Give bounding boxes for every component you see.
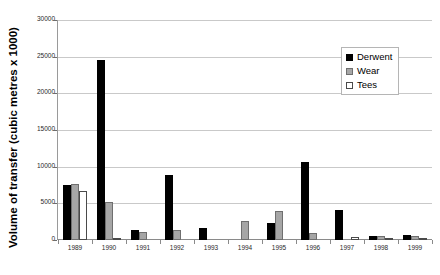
y-axis-tick-mark (53, 93, 57, 94)
bar-wear-1994 (241, 221, 249, 240)
y-axis-tick-mark (53, 130, 57, 131)
x-axis-tick-mark (296, 240, 297, 244)
bar-derwent-1992 (165, 175, 173, 240)
legend-item-wear: Wear (346, 65, 392, 77)
bar-wear-1999 (411, 236, 419, 240)
bar-wear-1996 (309, 233, 317, 240)
bar-derwent-1996 (301, 162, 309, 240)
bar-wear-1990 (105, 202, 113, 240)
x-axis-tick-mark (160, 240, 161, 244)
bar-tees-1990 (113, 238, 121, 240)
bar-wear-1995 (275, 211, 283, 240)
y-axis-tick-label: 0 (11, 236, 55, 243)
y-axis-title: Volume of transfer (cubic metres x 1000) (0, 0, 26, 275)
bar-derwent-1999 (403, 235, 411, 241)
bar-chart: Volume of transfer (cubic metres x 1000)… (0, 0, 440, 275)
x-axis-tick-mark (126, 240, 127, 244)
x-axis-tick-label: 1992 (160, 244, 194, 251)
bar-group (126, 20, 160, 240)
x-axis-tick-mark (364, 240, 365, 244)
bar-derwent-1997 (335, 210, 343, 240)
y-axis-tick-mark (53, 167, 57, 168)
x-axis-tick-label: 1995 (262, 244, 296, 251)
legend-swatch-wear-icon (346, 68, 353, 75)
bar-derwent-1995 (267, 223, 275, 240)
bar-group (58, 20, 92, 240)
bar-wear-1998 (377, 236, 385, 240)
x-axis-tick-label: 1991 (126, 244, 160, 251)
bar-derwent-1990 (97, 60, 105, 240)
legend-swatch-tees-icon (346, 82, 353, 89)
x-axis-tick-labels: 1989199019911992199319941995199619971998… (58, 244, 432, 251)
bar-derwent-1989 (63, 185, 71, 240)
y-axis-tick-label: 20000 (11, 89, 55, 96)
bar-group (92, 20, 126, 240)
x-axis-tick-mark (330, 240, 331, 244)
x-axis-tick-label: 1999 (398, 244, 432, 251)
x-axis-tick-mark (58, 240, 59, 244)
legend-item-derwent: Derwent (346, 51, 392, 63)
bar-group (228, 20, 262, 240)
legend-label-wear: Wear (357, 66, 380, 76)
bar-group (194, 20, 228, 240)
bar-wear-1989 (71, 184, 79, 240)
x-axis-tick-label: 1997 (330, 244, 364, 251)
x-axis-tick-mark (194, 240, 195, 244)
bar-wear-1991 (139, 232, 147, 240)
x-axis-tick-label: 1996 (296, 244, 330, 251)
y-axis-tick-label: 15000 (11, 126, 55, 133)
y-axis-tick-mark (53, 240, 57, 241)
bar-tees-1997 (351, 237, 359, 240)
x-axis-tick-label: 1998 (364, 244, 398, 251)
bar-group (296, 20, 330, 240)
bar-group (160, 20, 194, 240)
y-axis-tick-label: 5000 (11, 199, 55, 206)
y-axis-tick-mark (53, 203, 57, 204)
bar-tees-1989 (79, 191, 87, 240)
bar-derwent-1998 (369, 236, 377, 240)
x-axis-tick-mark (92, 240, 93, 244)
legend-swatch-derwent-icon (346, 54, 353, 61)
bar-group (262, 20, 296, 240)
legend-label-derwent: Derwent (357, 52, 392, 62)
y-axis-tick-mark (53, 20, 57, 21)
y-axis-tick-label: 25000 (11, 53, 55, 60)
bar-tees-1998 (385, 238, 393, 240)
x-axis-tick-mark (228, 240, 229, 244)
x-axis-tick-mark (398, 240, 399, 244)
y-axis-tick-label: 10000 (11, 163, 55, 170)
legend-label-tees: Tees (357, 80, 377, 90)
bar-derwent-1991 (131, 230, 139, 240)
bar-tees-1999 (419, 238, 427, 240)
x-axis-tick-label: 1990 (92, 244, 126, 251)
y-axis-tick-label: 30000 (11, 16, 55, 23)
legend-item-tees: Tees (346, 79, 392, 91)
bar-wear-1992 (173, 230, 181, 240)
x-axis-tick-label: 1989 (58, 244, 92, 251)
x-axis-tick-mark (262, 240, 263, 244)
x-axis-tick-label: 1993 (194, 244, 228, 251)
bar-group (398, 20, 432, 240)
x-axis-tick-mark (432, 240, 433, 244)
legend: Derwent Wear Tees (341, 47, 399, 95)
y-axis-tick-mark (53, 57, 57, 58)
bar-derwent-1993 (199, 228, 207, 240)
x-axis-tick-label: 1994 (228, 244, 262, 251)
